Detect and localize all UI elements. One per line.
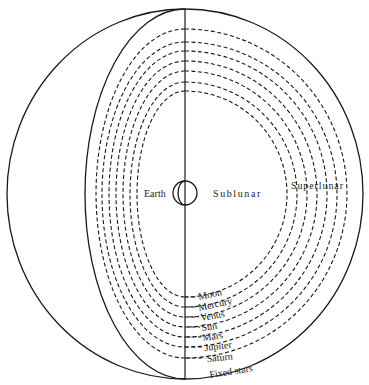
sublunar-label: Sublunar [213,188,262,199]
superlunar-label: Superlunar [291,180,344,191]
cosmos-diagram: Earth Sublunar Superlunar Moon Mercury V… [0,0,369,385]
earth-label: Earth [144,188,166,199]
planet-labels: Moon Mercury Venus Sun Mars Jupiter Satu… [185,286,233,364]
fixed-stars-label: Fixed stars [209,362,254,380]
saturn-label: Saturn [206,350,233,364]
